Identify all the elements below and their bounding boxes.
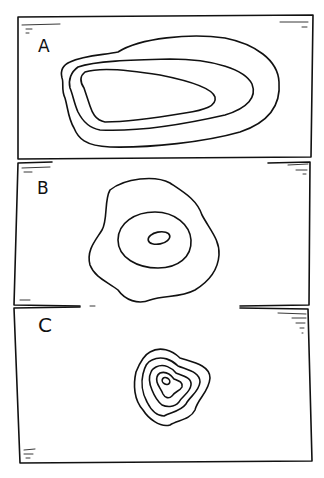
panel-b-frame [14,162,310,306]
panel-b-label: B [37,178,49,198]
panel-b [14,162,310,306]
panel-b-contour-outer [89,179,219,302]
panel-a-contour-inner [81,69,215,122]
panel-c-contour-5 [161,376,171,386]
panel-b-contour-middle [118,212,191,268]
panel-a-contour-outer [61,36,279,147]
panel-b-contour-inner [147,230,171,246]
diagram-canvas [0,0,324,478]
panel-c-frame [14,307,312,463]
panel-a [18,15,313,159]
panel-c-label: C [38,313,52,337]
panel-c-contour-3 [150,366,191,407]
panel-c [14,307,312,463]
panel-c-contour-4 [157,372,183,397]
panel-a-label: A [38,36,50,56]
